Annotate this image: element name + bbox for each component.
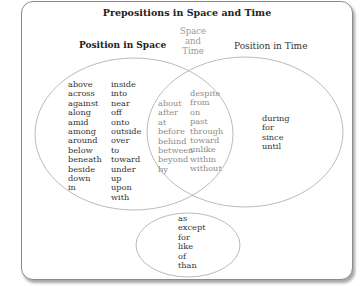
word: in <box>68 183 102 192</box>
label-space-and-time: Space and Time <box>176 26 210 56</box>
word: with <box>111 193 141 202</box>
space-only-col2: inside into near off onto outside over t… <box>111 80 141 202</box>
label-position-in-time: Position in Time <box>234 41 307 51</box>
word: than <box>178 261 205 270</box>
diagram-title: Prepositions in Space and Time <box>21 7 353 18</box>
word: until <box>262 142 290 151</box>
space-and-time-col2: despite from on past through toward unli… <box>190 89 223 174</box>
space-and-time-col1: about after at before behind between bey… <box>158 99 193 174</box>
other-col: as except for like of than <box>178 214 205 270</box>
label-overlap-line: Space <box>176 26 210 36</box>
word: without <box>190 164 223 173</box>
word: by <box>158 165 193 174</box>
label-overlap-line: Time <box>176 46 210 56</box>
label-position-in-space: Position in Space <box>79 40 166 50</box>
space-only-col1: above across against along amid among ar… <box>68 80 102 193</box>
time-only-col: during for since until <box>262 114 290 152</box>
label-overlap-line: and <box>176 36 210 46</box>
